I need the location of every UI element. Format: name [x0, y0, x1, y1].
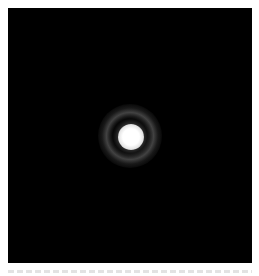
figure-caption	[0, 266, 259, 276]
light-spot	[118, 124, 144, 150]
figure-image	[8, 8, 252, 263]
caption-truncated-glyphs	[8, 270, 252, 273]
